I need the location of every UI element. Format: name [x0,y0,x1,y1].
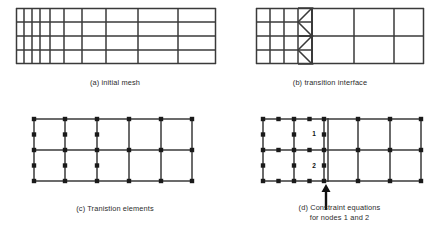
panel-b-caption: (b) transition interface [255,78,405,88]
panel-d-constraint-equations: 1 2 [262,118,422,214]
panel-b-transition-interface [256,8,424,64]
figure-root: (a) initial mesh [0,0,439,232]
panel-a-mesh-svg [16,8,216,64]
panel-a-horizontal-lines [16,9,216,64]
panel-d-horizontal-lines [262,119,422,181]
panel-b-mesh-svg [256,8,424,64]
node-label-2: 2 [312,162,316,169]
panel-c-caption: (c) Tranistion elements [45,204,185,214]
panel-a-initial-mesh [16,8,216,64]
panel-d-caption: (d) Constraint equations for nodes 1 and… [262,203,417,222]
panel-b-transition-triangles [298,8,312,64]
panel-c-mesh-svg [33,118,193,182]
node-label-1: 1 [312,130,316,137]
panel-c-horizontal-lines [33,119,193,181]
panel-a-caption: (a) initial mesh [45,78,185,88]
panel-c-transition-elements [33,118,193,182]
panel-d-mesh-svg: 1 2 [262,118,422,214]
panel-b-coarse-horizontals [312,9,424,64]
